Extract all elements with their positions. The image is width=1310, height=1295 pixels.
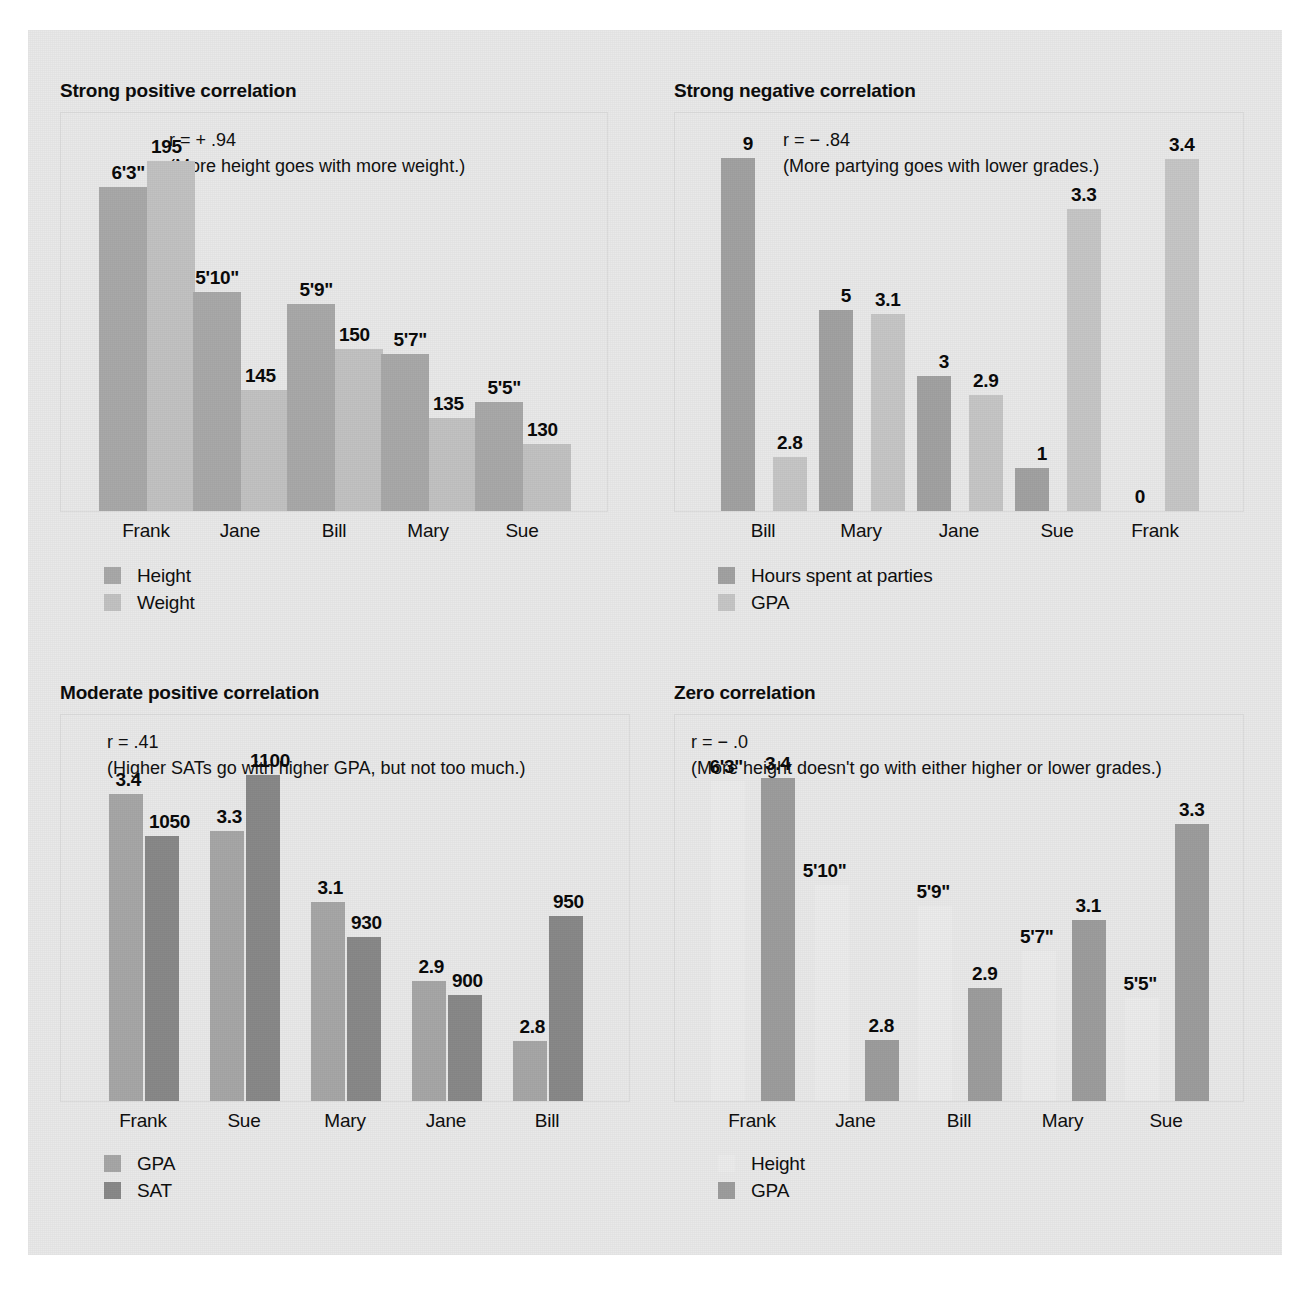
- bar-group: 5'5"130: [475, 113, 571, 511]
- bar-group: 3.41050: [109, 715, 179, 1101]
- legend-label: GPA: [751, 592, 789, 614]
- bar-value-label: 3.1: [281, 877, 343, 899]
- bar-value-label: 1: [985, 443, 1047, 465]
- category-label: Sue: [449, 520, 595, 542]
- bar-value-label: 5'10": [163, 267, 239, 289]
- bar-value-label: 5'9": [257, 279, 333, 301]
- bar-height: [711, 781, 745, 1101]
- bar-sat: [549, 916, 583, 1101]
- bar-value-label: 5'10": [785, 860, 847, 882]
- bar-gpa: [761, 778, 795, 1101]
- bar-sat: [145, 836, 179, 1101]
- legend-label: GPA: [751, 1180, 789, 1202]
- bars-moderate-positive: 3.410503.311003.19302.99002.8950: [61, 715, 629, 1101]
- bar-gpa: [968, 988, 1002, 1101]
- bar-gpa: [1067, 209, 1101, 511]
- bar-gpa: [311, 902, 345, 1101]
- category-axis-strong-positive: FrankJaneBillMarySue: [60, 512, 620, 548]
- bar-group: 5'7"3.1: [1022, 715, 1106, 1101]
- chart-panel-moderate-positive: Moderate positive correlation r = .41 (H…: [60, 682, 640, 1192]
- bar-group: 3.31100: [210, 715, 280, 1101]
- bar-hours-spent-at-parties: [819, 310, 853, 511]
- category-label: Bill: [487, 1110, 607, 1132]
- legend-item: SAT: [104, 1177, 684, 1204]
- legend-item: GPA: [104, 1150, 684, 1177]
- bar-value-label: 3.3: [1179, 799, 1253, 821]
- bar-group: 5'10"145: [193, 113, 289, 511]
- bar-value-label: 5: [789, 285, 851, 307]
- chart-panel-strong-negative: Strong negative correlation r = − .84 (M…: [674, 80, 1254, 602]
- legend-item: Height: [718, 1150, 1298, 1177]
- bar-height: [475, 402, 523, 511]
- bars-zero-correlation: 6'3"3.45'10"2.85'9"2.95'7"3.15'5"3.3: [675, 715, 1243, 1101]
- category-label: Sue: [1099, 1110, 1233, 1132]
- bar-height: [381, 354, 429, 511]
- bar-gpa: [210, 831, 244, 1101]
- legend-swatch-icon: [104, 567, 121, 584]
- bar-gpa: [871, 314, 905, 511]
- chart-title-zero-correlation: Zero correlation: [674, 682, 1254, 704]
- bar-value-label: 6'3": [69, 162, 145, 184]
- bar-weight: [429, 418, 477, 511]
- plot-area-zero-correlation: r = − .0 (More height doesn't go with ei…: [674, 714, 1244, 1102]
- bar-weight: [241, 390, 289, 512]
- bar-value-label: 2.9: [382, 956, 444, 978]
- bar-value-label: 9: [691, 133, 753, 155]
- bar-group: 6'3"3.4: [711, 715, 795, 1101]
- legend-swatch-icon: [718, 567, 735, 584]
- bar-gpa: [773, 457, 807, 511]
- bar-value-label: 5'7": [992, 926, 1054, 948]
- bar-value-label: 6'3": [681, 756, 743, 778]
- bar-value-label: 3.4: [79, 769, 141, 791]
- bar-group: 53.1: [819, 113, 905, 511]
- bar-value-label: 3: [887, 351, 949, 373]
- bar-group: 5'9"150: [287, 113, 383, 511]
- bars-strong-positive: 6'3"1955'10"1455'9"1505'7"1355'5"130: [61, 113, 607, 511]
- legend-strong-negative: Hours spent at partiesGPA: [718, 562, 1298, 616]
- bar-value-label: 5'7": [351, 329, 427, 351]
- legend-item: GPA: [718, 589, 1298, 616]
- bar-gpa: [109, 794, 143, 1101]
- bar-weight: [335, 349, 383, 512]
- bar-group: 5'9"2.9: [918, 715, 1002, 1101]
- bar-group: 2.9900: [412, 715, 482, 1101]
- bar-group: 5'10"2.8: [815, 715, 899, 1101]
- bar-height: [99, 187, 147, 511]
- plot-area-strong-positive: r = + .94 (More height goes with more we…: [60, 112, 608, 512]
- bar-group: 2.8950: [513, 715, 583, 1101]
- bar-group: 3.1930: [311, 715, 381, 1101]
- chart-title-moderate-positive: Moderate positive correlation: [60, 682, 640, 704]
- bar-group: 5'5"3.3: [1125, 715, 1209, 1101]
- bar-height: [193, 292, 241, 511]
- bar-gpa: [1175, 824, 1209, 1101]
- legend-strong-positive: HeightWeight: [104, 562, 664, 616]
- plot-area-moderate-positive: r = .41 (Higher SATs go with higher GPA,…: [60, 714, 630, 1102]
- bar-group: 03.4: [1113, 113, 1199, 511]
- legend-swatch-icon: [104, 594, 121, 611]
- figure-page: Strong positive correlation r = + .94 (M…: [28, 30, 1282, 1255]
- legend-label: SAT: [137, 1180, 172, 1202]
- bar-gpa: [412, 981, 446, 1101]
- bar-weight: [523, 444, 571, 511]
- legend-label: Height: [751, 1153, 805, 1175]
- category-axis-strong-negative: BillMaryJaneSueFrank: [674, 512, 1254, 548]
- bar-value-label: 950: [553, 891, 627, 913]
- legend-swatch-icon: [718, 594, 735, 611]
- bar-sat: [448, 995, 482, 1101]
- legend-label: Hours spent at parties: [751, 565, 932, 587]
- bar-gpa: [1072, 920, 1106, 1101]
- bar-height: [1125, 998, 1159, 1101]
- legend-moderate-positive: GPASAT: [104, 1150, 684, 1204]
- bar-value-label: 2.8: [483, 1016, 545, 1038]
- bar-hours-spent-at-parties: [917, 376, 951, 511]
- legend-item: Height: [104, 562, 664, 589]
- bar-value-label: 5'5": [445, 377, 521, 399]
- bar-hours-spent-at-parties: [721, 158, 755, 511]
- chart-panel-strong-positive: Strong positive correlation r = + .94 (M…: [60, 80, 620, 602]
- category-axis-moderate-positive: FrankSueMaryJaneBill: [60, 1102, 640, 1138]
- legend-swatch-icon: [104, 1155, 121, 1172]
- legend-swatch-icon: [718, 1182, 735, 1199]
- legend-item: GPA: [718, 1177, 1298, 1204]
- bar-height: [815, 885, 849, 1101]
- bar-group: 5'7"135: [381, 113, 477, 511]
